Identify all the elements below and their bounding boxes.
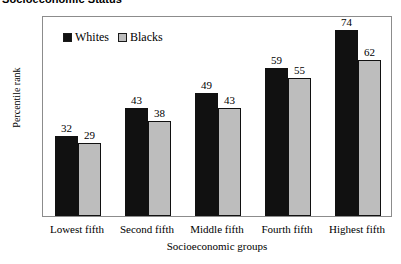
bar-wrap: 38 [148,17,171,216]
bar-value-label: 29 [84,130,95,141]
x-tick-label: Highest fifth [329,223,385,235]
bar-value-label: 43 [224,95,235,106]
bar-wrap: 32 [55,17,78,216]
bar-blacks-4[interactable] [358,60,381,216]
bar-group: 3229 [55,17,101,216]
bar-wrap: 49 [195,17,218,216]
bar-wrap: 59 [265,17,288,216]
bar-wrap: 29 [78,17,101,216]
bar-value-label: 32 [61,123,72,134]
bar-whites-2[interactable] [195,93,218,216]
plot-area: WhitesBlacks 32294338494359557462 [43,17,391,216]
bar-value-label: 59 [271,55,282,66]
bar-whites-0[interactable] [55,136,78,216]
bar-group: 5955 [265,17,311,216]
bar-wrap: 74 [335,17,358,216]
bar-blacks-3[interactable] [288,78,311,216]
bar-group: 4943 [195,17,241,216]
bar-wrap: 43 [218,17,241,216]
y-axis-title: Percentile rank [11,33,22,163]
bar-wrap: 43 [125,17,148,216]
x-tick-label: Second fifth [120,223,174,235]
x-tick-label: Fourth fifth [261,223,312,235]
bar-whites-1[interactable] [125,108,148,216]
chart-title: Socioeconomic Status [2,0,122,5]
bar-wrap: 55 [288,17,311,216]
x-tick-label: Lowest fifth [50,223,104,235]
bar-value-label: 74 [341,17,352,28]
bar-blacks-1[interactable] [148,121,171,216]
bar-value-label: 55 [294,65,305,76]
bar-whites-4[interactable] [335,30,358,216]
bar-value-label: 38 [154,108,165,119]
bar-whites-3[interactable] [265,68,288,216]
bar-wrap: 62 [358,17,381,216]
bar-value-label: 43 [131,95,142,106]
bar-blacks-2[interactable] [218,108,241,216]
bar-blacks-0[interactable] [78,143,101,216]
x-axis-title: Socioeconomic groups [42,240,392,252]
bar-group: 4338 [125,17,171,216]
bars-layer: 32294338494359557462 [43,17,391,216]
bar-value-label: 49 [201,80,212,91]
plot-frame: WhitesBlacks 32294338494359557462 [42,16,392,217]
bar-group: 7462 [335,17,381,216]
bar-value-label: 62 [364,47,375,58]
x-tick-label: Middle fifth [190,223,243,235]
